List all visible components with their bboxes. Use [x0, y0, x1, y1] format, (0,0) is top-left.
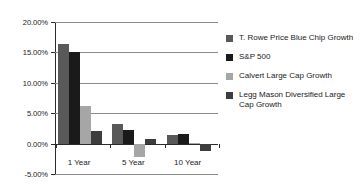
legend-label: T. Rowe Price Blue Chip Growth [239, 33, 353, 43]
y-axis-tick [51, 52, 55, 53]
y-axis-tick [51, 83, 55, 84]
legend-label: Calvert Large Cap Growth [239, 71, 332, 81]
bar [58, 44, 69, 143]
bar [80, 106, 91, 144]
y-axis-tick [51, 113, 55, 114]
legend-item: S&P 500 [226, 52, 358, 62]
y-axis-tick [51, 144, 55, 145]
bar [134, 144, 145, 157]
x-axis-tick [165, 144, 166, 148]
bar [112, 124, 123, 143]
y-axis-tick [51, 22, 55, 23]
legend-swatch-icon [226, 54, 233, 61]
bars-group [56, 22, 218, 174]
legend-item: T. Rowe Price Blue Chip Growth [226, 33, 358, 43]
y-axis-tick-label: -5.00% [25, 170, 48, 179]
y-axis-tick-label: 10.00% [23, 78, 48, 87]
bar [69, 52, 80, 143]
y-axis-tick-label: 0.00% [27, 139, 48, 148]
y-axis-tick [51, 174, 55, 175]
legend-label: S&P 500 [239, 52, 270, 62]
y-axis-tick-label: 15.00% [23, 48, 48, 57]
bar [167, 135, 178, 144]
bar [189, 143, 200, 144]
bar [145, 139, 156, 143]
y-axis-tick-label: 20.00% [23, 18, 48, 27]
legend-swatch-icon [226, 92, 233, 99]
bar-chart: 20.00%15.00%10.00%5.00%0.00%-5.00% 1 Yea… [0, 0, 360, 189]
gridline--500 [55, 174, 218, 175]
x-axis-group-label: 5 Year [122, 158, 145, 167]
y-axis-tick-label: 5.00% [27, 109, 48, 118]
legend-item: Legg Mason Diversified Large Cap Growth [226, 90, 358, 110]
chart-legend: T. Rowe Price Blue Chip GrowthS&P 500Cal… [226, 33, 358, 119]
bar [91, 131, 102, 144]
x-axis-tick [110, 144, 111, 148]
legend-label: Legg Mason Diversified Large Cap Growth [239, 90, 358, 110]
x-axis-group-label: 10 Year [174, 158, 201, 167]
legend-swatch-icon [226, 35, 233, 42]
bar [178, 134, 189, 143]
legend-swatch-icon [226, 73, 233, 80]
bar [200, 144, 211, 152]
x-axis-tick [56, 144, 57, 148]
x-axis-tick [219, 144, 220, 148]
legend-item: Calvert Large Cap Growth [226, 71, 358, 81]
plot-area: 20.00%15.00%10.00%5.00%0.00%-5.00% 1 Yea… [55, 22, 218, 174]
bar [123, 130, 134, 143]
x-axis-group-label: 1 Year [68, 158, 91, 167]
